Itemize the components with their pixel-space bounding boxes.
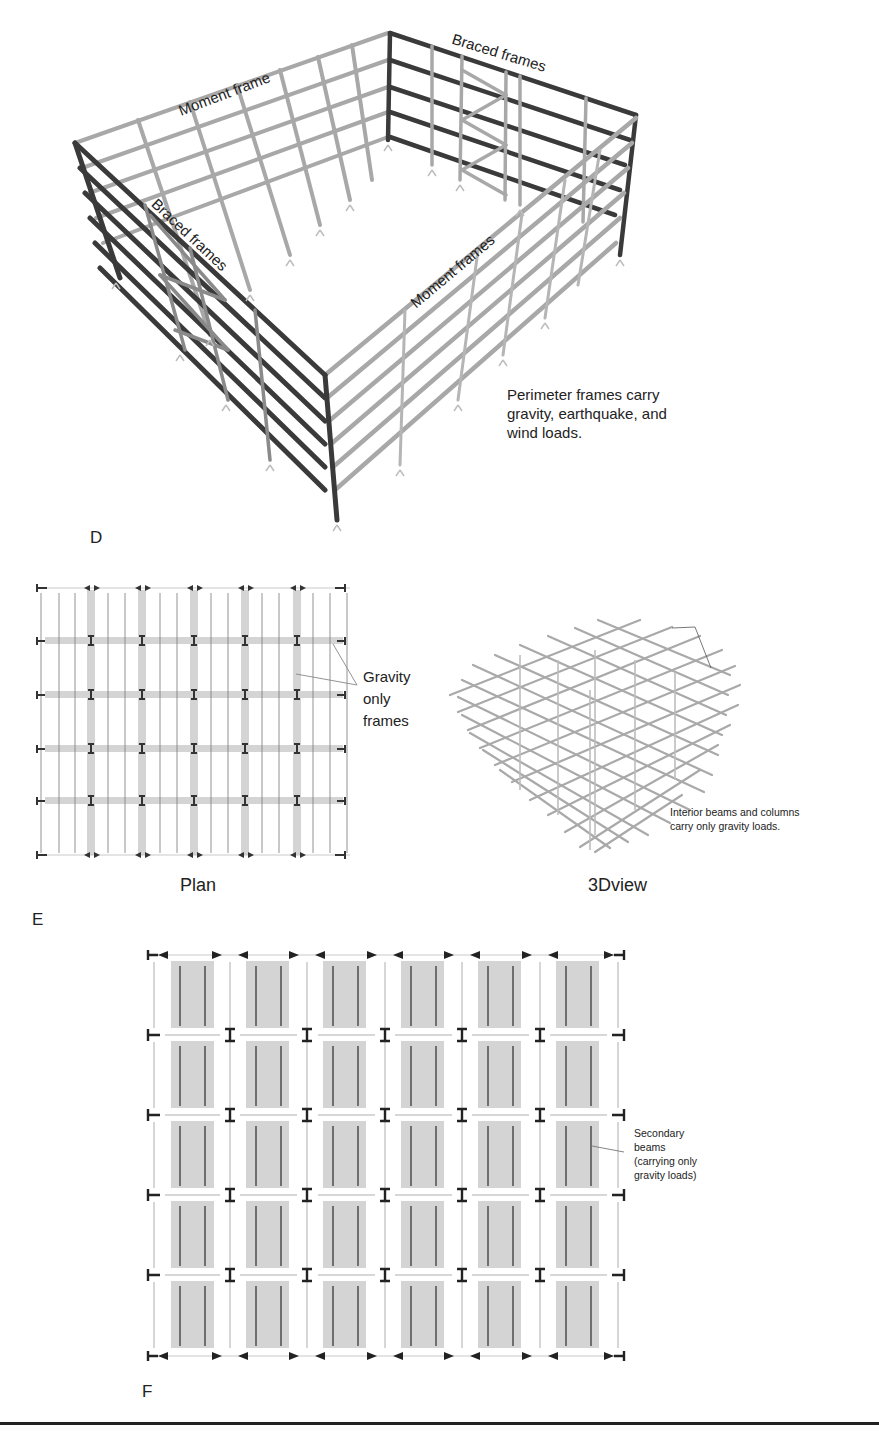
label-line: gravity loads) <box>634 1168 697 1182</box>
secondary-beams-label: Secondary beams (carrying only gravity l… <box>634 1126 697 1182</box>
label-line: Secondary <box>634 1126 697 1140</box>
panel-letter-f: F <box>142 1382 152 1402</box>
secondary-beams-plan-drawing <box>0 0 879 1432</box>
label-line: beams <box>634 1140 697 1154</box>
label-line: (carrying only <box>634 1154 697 1168</box>
page-bottom-rule <box>0 1422 879 1425</box>
